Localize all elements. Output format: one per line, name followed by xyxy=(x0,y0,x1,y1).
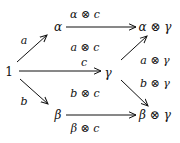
edge-label-a: a xyxy=(21,35,28,47)
edge-label-alpha-tensor-c: α ⊗ c xyxy=(70,9,100,21)
edge-label-b-tensor-gamma: b ⊗ γ xyxy=(140,78,170,90)
edge-label-a-tensor-gamma: a ⊗ γ xyxy=(140,55,169,67)
node-beta: β xyxy=(55,109,62,121)
node-alpha-tensor-gamma: α ⊗ γ xyxy=(139,21,172,33)
cell-label-a-tensor-c: a ⊗ c xyxy=(71,42,100,54)
edge-label-beta-tensor-c: β ⊗ c xyxy=(71,123,100,135)
edge-label-b: b xyxy=(20,96,27,108)
node-gamma: γ xyxy=(104,67,111,79)
node-beta-tensor-gamma: β ⊗ γ xyxy=(139,109,171,121)
edge-label-c: c xyxy=(81,57,87,69)
cell-label-b-tensor-c: b ⊗ c xyxy=(70,88,99,100)
node-alpha: α xyxy=(54,21,62,33)
node-one: 1 xyxy=(5,66,13,78)
commutative-diagram: 1 α α ⊗ γ γ β β ⊗ γ a c b α ⊗ c a ⊗ γ b … xyxy=(0,0,180,143)
